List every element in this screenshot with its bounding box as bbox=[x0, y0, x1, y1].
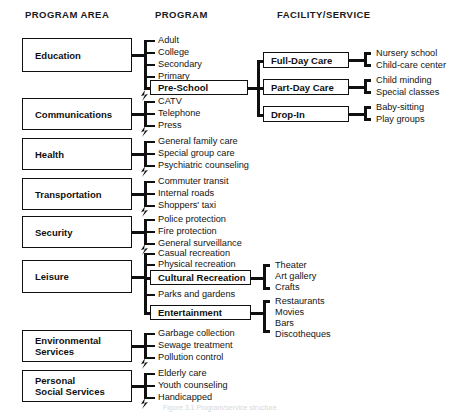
service-label-crafts: Crafts bbox=[275, 282, 300, 292]
facility-box-part-day-care[interactable]: Part-Day Care bbox=[263, 79, 349, 95]
program-label-psychiatric-counseling: Psychiatric counseling bbox=[158, 160, 249, 170]
bracket-entertainment bbox=[263, 300, 270, 333]
service-label-restaurants: Restaurants bbox=[275, 296, 325, 306]
program-area-box-security[interactable]: Security bbox=[22, 216, 132, 248]
program-label-garbage-collection: Garbage collection bbox=[158, 328, 235, 338]
program-label-fire-protection: Fire protection bbox=[158, 226, 217, 236]
program-label-elderly-care: Elderly care bbox=[158, 368, 207, 378]
column-header-facility-service: FACILITY/SERVICE bbox=[277, 9, 371, 20]
connector-tick bbox=[144, 181, 155, 183]
bracket-part-day-care bbox=[364, 79, 371, 94]
program-area-label: Security bbox=[35, 227, 73, 238]
spine-break-mark-icon bbox=[140, 126, 149, 137]
facility-box-label: Part-Day Care bbox=[271, 82, 334, 93]
figure-caption: Figure 3.1 Program/service structure bbox=[163, 404, 277, 411]
program-area-box-personal-social-services[interactable]: Personal Social Services bbox=[22, 370, 132, 402]
connector-tick bbox=[144, 373, 155, 375]
connector-tick bbox=[144, 52, 155, 54]
program-box-label: Cultural Recreation bbox=[158, 272, 246, 283]
program-area-box-transportation[interactable]: Transportation bbox=[22, 178, 132, 210]
program-area-label-line2: Services bbox=[35, 346, 101, 357]
program-label-general-surveillance: General surveillance bbox=[158, 238, 242, 248]
spine-break-mark-icon bbox=[140, 358, 149, 369]
connector-tick bbox=[144, 231, 155, 233]
program-area-label: Education bbox=[35, 50, 81, 61]
program-label-commuter-transit: Commuter transit bbox=[158, 176, 228, 186]
program-label-shoppers-taxi: Shoppers' taxi bbox=[158, 200, 216, 210]
program-label-physical-recreation: Physical recreation bbox=[158, 259, 236, 269]
service-label-baby-sitting: Baby-sitting bbox=[376, 102, 424, 112]
program-box-label: Pre-School bbox=[158, 82, 208, 93]
program-area-label: Transportation bbox=[35, 189, 102, 200]
connector-tick bbox=[144, 40, 155, 42]
connector-tick bbox=[144, 113, 155, 115]
program-area-label: Communications bbox=[35, 109, 112, 120]
spine-break-mark-icon bbox=[140, 90, 149, 101]
program-box-label: Entertainment bbox=[158, 307, 222, 318]
program-area-label: Leisure bbox=[35, 271, 69, 282]
service-label-child-care-center: Child-care center bbox=[376, 60, 446, 70]
program-label-youth-counseling: Youth counseling bbox=[158, 380, 228, 390]
facility-box-label: Full-Day Care bbox=[271, 55, 332, 66]
program-area-box-environmental-services[interactable]: Environmental Services bbox=[22, 330, 132, 362]
connector-tick bbox=[144, 385, 155, 387]
connector-tick bbox=[144, 101, 155, 103]
connector-tick bbox=[144, 345, 155, 347]
bracket-cultural-recreation bbox=[263, 264, 270, 290]
program-label-sewage-treatment: Sewage treatment bbox=[158, 340, 233, 350]
program-area-box-education[interactable]: Education bbox=[22, 38, 132, 72]
bracket-full-day-care bbox=[364, 52, 371, 67]
spine-break-mark-icon bbox=[140, 166, 149, 177]
program-label-special-group-care: Special group care bbox=[158, 148, 235, 158]
facility-box-label: Drop-In bbox=[271, 109, 305, 120]
program-area-box-health[interactable]: Health bbox=[22, 138, 132, 170]
program-label-adult: Adult bbox=[158, 35, 179, 45]
program-label-press: Press bbox=[158, 120, 182, 130]
service-label-child-minding: Child minding bbox=[376, 75, 432, 85]
service-label-bars: Bars bbox=[275, 318, 294, 328]
bracket-drop-in bbox=[364, 106, 371, 121]
service-label-theater: Theater bbox=[275, 260, 307, 270]
program-label-general-family-care: General family care bbox=[158, 136, 238, 146]
service-label-special-classes: Special classes bbox=[376, 87, 439, 97]
program-label-college: College bbox=[158, 47, 189, 57]
spine-break-mark-icon bbox=[140, 206, 149, 217]
connector-tick bbox=[144, 333, 155, 335]
program-box-cultural-recreation[interactable]: Cultural Recreation bbox=[150, 270, 251, 285]
service-label-discotheques: Discotheques bbox=[275, 329, 331, 339]
facility-box-drop-in[interactable]: Drop-In bbox=[263, 106, 349, 122]
facility-box-full-day-care[interactable]: Full-Day Care bbox=[263, 52, 349, 68]
connector-leisure-spine bbox=[144, 253, 147, 313]
connector-tick bbox=[144, 264, 155, 266]
program-area-box-leisure[interactable]: Leisure bbox=[22, 260, 132, 293]
program-label-casual-recreation: Casual recreation bbox=[158, 248, 230, 258]
program-label-parks-and-gardens: Parks and gardens bbox=[158, 289, 235, 299]
column-header-program-area: PROGRAM AREA bbox=[25, 9, 109, 20]
service-label-nursery-school: Nursery school bbox=[376, 48, 437, 58]
connector-tick bbox=[144, 253, 155, 255]
program-label-handicapped: Handicapped bbox=[158, 392, 212, 402]
program-area-label: Health bbox=[35, 149, 64, 160]
program-area-label-line1: Environmental bbox=[35, 335, 101, 346]
connector-tick bbox=[144, 219, 155, 221]
program-box-entertainment[interactable]: Entertainment bbox=[150, 305, 251, 320]
column-header-program: PROGRAM bbox=[155, 9, 208, 20]
program-label-police-protection: Police protection bbox=[158, 214, 226, 224]
connector-tick bbox=[144, 141, 155, 143]
spine-break-mark-icon bbox=[140, 398, 149, 409]
connector-tick bbox=[144, 64, 155, 66]
program-label-catv: CATV bbox=[158, 96, 182, 106]
figure-canvas: PROGRAM AREA PROGRAM FACILITY/SERVICE Ed… bbox=[0, 0, 463, 412]
service-label-art-gallery: Art gallery bbox=[275, 271, 316, 281]
connector-tick bbox=[144, 153, 155, 155]
program-label-internal-roads: Internal roads bbox=[158, 188, 214, 198]
service-label-movies: Movies bbox=[275, 307, 304, 317]
program-area-label-line2: Social Services bbox=[35, 386, 105, 397]
program-area-box-communications[interactable]: Communications bbox=[22, 98, 132, 130]
program-label-secondary: Secondary bbox=[158, 59, 202, 69]
program-label-telephone: Telephone bbox=[158, 108, 200, 118]
program-area-label-line1: Personal bbox=[35, 375, 105, 386]
program-label-pollution-control: Pollution control bbox=[158, 352, 223, 362]
service-label-play-groups: Play groups bbox=[376, 114, 425, 124]
program-box-pre-school[interactable]: Pre-School bbox=[150, 80, 248, 95]
